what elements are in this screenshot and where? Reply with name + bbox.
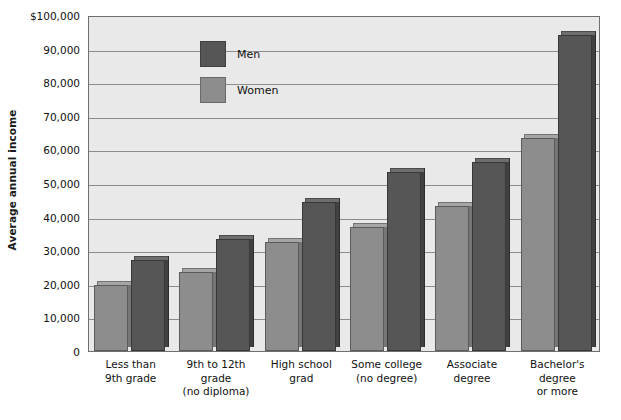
- y-axis-tick-label: 50,000: [43, 178, 80, 190]
- chart-legend: Men Women: [200, 41, 278, 113]
- bar-side-face: [421, 168, 425, 347]
- bar-face: [302, 202, 336, 351]
- x-axis-label: Bachelor'sdegreeor more: [515, 358, 600, 399]
- bar-women: [94, 285, 128, 351]
- bar-group: [430, 17, 515, 351]
- bar-side-face: [165, 256, 169, 347]
- legend-label-men: Men: [237, 48, 260, 61]
- bar-face: [94, 285, 128, 351]
- bar-women: [350, 227, 384, 351]
- y-axis-title: Average annual income: [0, 0, 24, 360]
- y-axis-tick-label: 40,000: [43, 212, 80, 224]
- y-axis-tick-label: 20,000: [43, 279, 80, 291]
- y-axis-tick-label: 70,000: [43, 111, 80, 123]
- legend-item-men: Men: [200, 41, 278, 67]
- x-axis-label: Less than9th grade: [88, 358, 173, 385]
- bar-men: [558, 35, 592, 351]
- x-axis-label: High schoolgrad: [259, 358, 344, 385]
- bar-men: [472, 162, 506, 351]
- y-axis-tick-label: 90,000: [43, 44, 80, 56]
- bar-face: [131, 260, 165, 351]
- x-axis-label: Associatedegree: [429, 358, 514, 385]
- bar-face: [558, 35, 592, 351]
- bar-side-face: [250, 235, 254, 347]
- bar-face: [265, 242, 299, 351]
- bar-men: [216, 239, 250, 351]
- legend-swatch-men-icon: [200, 41, 226, 67]
- bar-men: [387, 172, 421, 351]
- bar-face: [472, 162, 506, 351]
- y-axis-title-text: Average annual income: [6, 110, 18, 251]
- y-axis-tick-label: 10,000: [43, 312, 80, 324]
- bar-side-face: [336, 198, 340, 347]
- x-axis-label: 9th to 12thgrade(no diploma): [173, 358, 258, 399]
- bar-chart: Average annual income $100,00090,00080,0…: [0, 0, 621, 420]
- bar-women: [265, 242, 299, 351]
- bar-face: [521, 138, 555, 351]
- legend-label-women: Women: [237, 84, 278, 97]
- bar-men: [131, 260, 165, 351]
- x-axis-label: Some college(no degree): [344, 358, 429, 385]
- bar-group: [516, 17, 601, 351]
- bar-face: [350, 227, 384, 351]
- bar-side-face: [506, 158, 510, 347]
- plot-area: Men Women: [88, 16, 600, 352]
- bar-face: [216, 239, 250, 351]
- bar-men: [302, 202, 336, 351]
- y-axis-tick-label: 60,000: [43, 144, 80, 156]
- y-axis-tick-label: 30,000: [43, 245, 80, 257]
- bar-women: [435, 206, 469, 351]
- bar-side-face: [592, 31, 596, 347]
- bar-face: [179, 272, 213, 351]
- x-axis-category-labels: Less than9th grade9th to 12thgrade(no di…: [88, 358, 600, 420]
- y-axis-tick-label: $100,000: [30, 10, 80, 22]
- bar-face: [435, 206, 469, 351]
- bar-group: [89, 17, 174, 351]
- bar-face: [387, 172, 421, 351]
- legend-item-women: Women: [200, 77, 278, 103]
- y-axis-tick-label: 0: [73, 346, 80, 358]
- legend-swatch-women-icon: [200, 77, 226, 103]
- y-axis-tick-label: 80,000: [43, 77, 80, 89]
- bar-women: [521, 138, 555, 351]
- bar-women: [179, 272, 213, 351]
- y-axis-tick-labels: $100,00090,00080,00070,00060,00050,00040…: [24, 0, 86, 420]
- bar-group: [345, 17, 430, 351]
- bars-layer: [89, 17, 599, 351]
